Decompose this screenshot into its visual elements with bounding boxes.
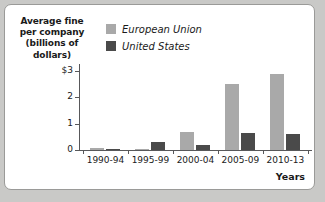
- bar-united-states-1995-99: [151, 142, 165, 150]
- y-axis-title-line-4: dollars): [13, 50, 91, 61]
- x-axis-label-2010-13: 2010-13: [263, 155, 308, 165]
- y-tick-label: 1: [47, 118, 73, 128]
- chart-figure: Average fine per company (billions of do…: [0, 0, 325, 202]
- bar-united-states-2005-09: [241, 133, 255, 150]
- bar-european-union-1995-99: [135, 149, 149, 150]
- legend-item-united-states: United States: [106, 39, 202, 53]
- y-axis-line: [79, 64, 80, 151]
- x-axis-line: [79, 150, 312, 151]
- y-axis-title: Average fine per company (billions of do…: [13, 16, 91, 61]
- x-axis-label-2005-09: 2005-09: [218, 155, 263, 165]
- bar-european-union-1990-94: [90, 148, 104, 150]
- x-tick-mark: [173, 150, 174, 154]
- y-tick-mark: [75, 71, 80, 72]
- x-tick-mark: [263, 150, 264, 154]
- x-axis-label-2000-04: 2000-04: [173, 155, 218, 165]
- x-tick-mark: [308, 150, 309, 154]
- legend-item-european-union: European Union: [106, 22, 202, 36]
- legend-label-united-states: United States: [122, 41, 190, 52]
- bar-european-union-2005-09: [225, 84, 239, 150]
- bar-united-states-1990-94: [106, 149, 120, 150]
- y-tick-mark: [75, 97, 80, 98]
- legend-label-european-union: European Union: [122, 24, 202, 35]
- bar-united-states-2010-13: [286, 134, 300, 150]
- x-tick-mark: [218, 150, 219, 154]
- x-axis-label-1995-99: 1995-99: [128, 155, 173, 165]
- y-tick-mark: [75, 150, 80, 151]
- y-tick-mark: [75, 124, 80, 125]
- y-tick-label: 2: [47, 91, 73, 101]
- y-axis-title-line-1: Average fine: [13, 16, 91, 27]
- bar-european-union-2000-04: [180, 132, 194, 150]
- y-tick-label: 0: [47, 144, 73, 154]
- chart-legend: European Union United States: [106, 22, 202, 56]
- x-axis-title: Years: [276, 171, 305, 182]
- x-axis-label-1990-94: 1990-94: [83, 155, 128, 165]
- y-tick-label: $3: [47, 65, 73, 75]
- y-axis-title-line-3: (billions of: [13, 38, 91, 49]
- x-tick-mark: [83, 150, 84, 154]
- y-axis-title-line-2: per company: [13, 27, 91, 38]
- legend-swatch-european-union: [106, 24, 116, 34]
- legend-swatch-united-states: [106, 41, 116, 51]
- x-tick-mark: [128, 150, 129, 154]
- bar-european-union-2010-13: [270, 74, 284, 150]
- chart-panel: Average fine per company (billions of do…: [4, 4, 315, 190]
- bar-united-states-2000-04: [196, 145, 210, 150]
